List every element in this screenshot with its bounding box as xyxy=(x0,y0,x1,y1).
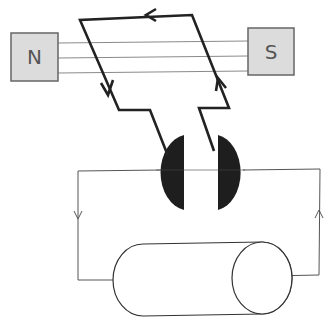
coil xyxy=(80,9,229,156)
south-label: S xyxy=(265,40,278,64)
coil-arrow-left-icon xyxy=(146,9,156,21)
field-line-bottom xyxy=(58,71,248,73)
cylinder-load xyxy=(113,242,292,316)
commutator xyxy=(161,135,241,210)
cylinder-end-face xyxy=(232,242,292,314)
north-magnet: N xyxy=(11,33,58,81)
generator-diagram: N S xyxy=(0,0,330,321)
field-line-top xyxy=(58,41,248,43)
field-line-middle xyxy=(58,56,248,58)
commutator-right-half xyxy=(218,135,241,210)
south-magnet: S xyxy=(248,28,294,75)
north-label: N xyxy=(27,45,42,69)
circuit-arrow-up-icon xyxy=(315,210,323,218)
field-lines xyxy=(58,41,248,73)
